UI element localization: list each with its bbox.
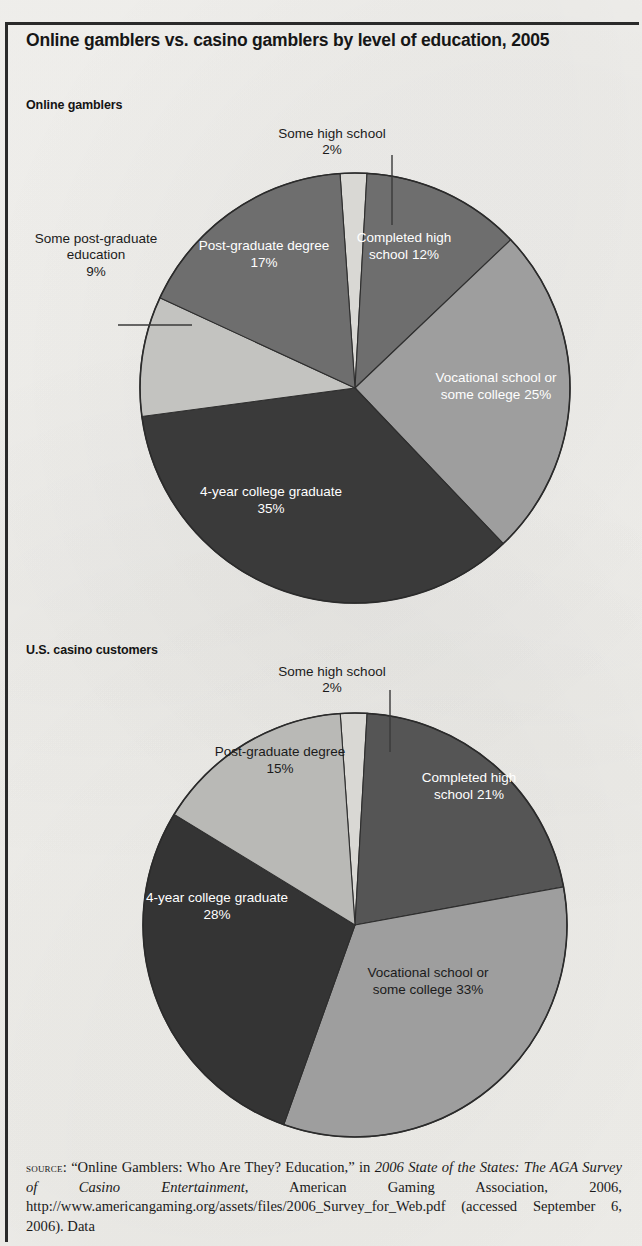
slice-label-value: 21% <box>477 787 504 802</box>
callout-label: Some high school <box>278 664 385 679</box>
slice-label-post-graduate-degree-online: Post-graduate degree 17% <box>196 238 332 271</box>
slice-label-completed-high-school-online: Completed high school 12% <box>340 230 468 263</box>
border-rule-top <box>5 22 639 25</box>
source-label: source <box>26 1160 63 1175</box>
slice-label-completed-high-school-casino: Completed high school 21% <box>405 770 533 803</box>
callout-label: Some post-graduate education <box>35 231 157 262</box>
source-text-part-1: : “Online Gamblers: Who Are They? Educat… <box>63 1159 375 1175</box>
callout-value: 2% <box>232 142 432 158</box>
slice-label-4-year-college-casino: 4-year college graduate 28% <box>142 890 292 923</box>
slice-label-4-year-college-online: 4-year college graduate 35% <box>196 484 346 517</box>
callout-label: Some high school <box>278 126 385 141</box>
slice-label-value: 25% <box>524 387 551 402</box>
slice-label-value: 12% <box>412 247 439 262</box>
callout-value: 9% <box>12 264 180 280</box>
slice-label-value: 28% <box>203 907 230 922</box>
chart-heading-online-gamblers: Online gamblers <box>26 98 122 112</box>
slice-label-post-graduate-degree-casino: Post-graduate degree 15% <box>212 744 348 777</box>
slice-label-vocational-school-online: Vocational school or some college 25% <box>418 370 574 403</box>
slice-label-value: 35% <box>257 501 284 516</box>
page-title: Online gamblers vs. casino gamblers by l… <box>26 30 616 52</box>
slice-label-value: 33% <box>456 982 483 997</box>
callout-value: 2% <box>232 680 432 696</box>
callout-some-high-school-casino: Some high school 2% <box>232 664 432 697</box>
callout-some-post-graduate-online: Some post-graduate education 9% <box>12 231 180 280</box>
slice-label-text: 4-year college graduate <box>200 484 342 499</box>
source-note: source: “Online Gamblers: Who Are They? … <box>26 1158 622 1236</box>
chart-heading-us-casino-customers: U.S. casino customers <box>26 643 158 657</box>
slice-label-value: 17% <box>250 255 277 270</box>
slice-label-text: 4-year college graduate <box>146 890 288 905</box>
slice-label-text: Post-graduate degree <box>215 744 346 759</box>
slice-label-text: Post-graduate degree <box>199 238 330 253</box>
callout-some-high-school-online: Some high school 2% <box>232 126 432 159</box>
slice-label-vocational-school-casino: Vocational school or some college 33% <box>350 965 506 998</box>
slice-label-value: 15% <box>266 761 293 776</box>
